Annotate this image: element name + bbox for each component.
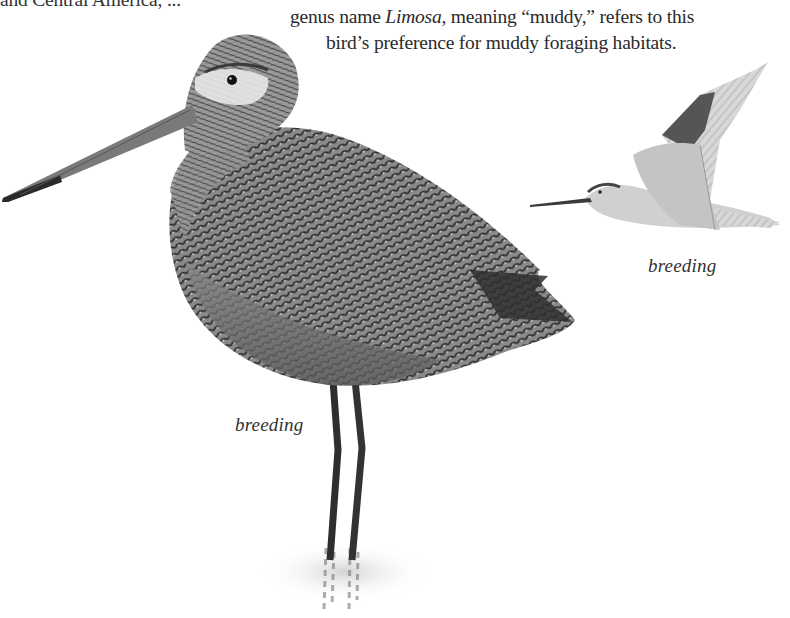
standing-bird-caption: breeding xyxy=(235,414,303,436)
standing-godwit-illustration xyxy=(2,35,575,612)
flying-bird-caption: breeding xyxy=(648,255,716,277)
flying-bill xyxy=(530,198,592,207)
flying-godwit-illustration xyxy=(530,62,780,230)
eye xyxy=(227,75,237,85)
water-reflection xyxy=(260,542,430,602)
leg-right xyxy=(352,380,362,560)
illustration-canvas xyxy=(0,0,790,618)
leg-left xyxy=(330,380,338,560)
